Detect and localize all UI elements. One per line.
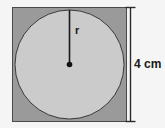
geometry-figure: r 4 cm xyxy=(0,0,165,128)
radius-label: r xyxy=(75,25,79,36)
center-dot xyxy=(67,62,73,68)
dimension-label: 4 cm xyxy=(134,58,161,70)
